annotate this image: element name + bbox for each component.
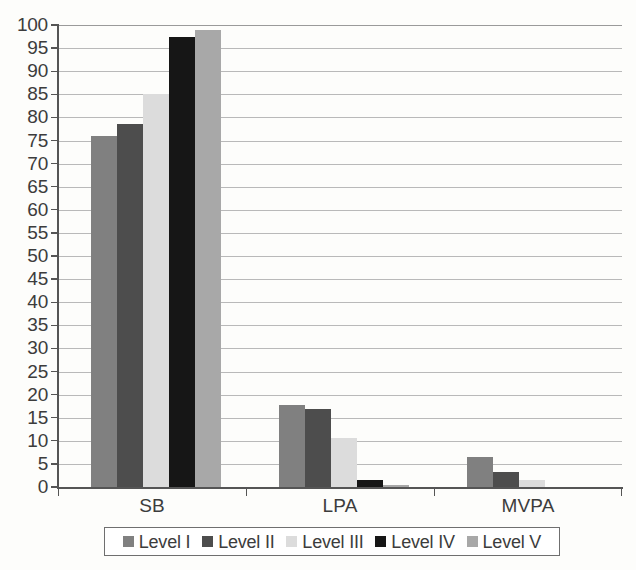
gridline: [58, 25, 622, 26]
bar-mvpa-level-ii: [493, 472, 519, 487]
y-axis-tick: [51, 94, 57, 95]
bar-lpa-level-ii: [305, 409, 331, 487]
x-axis-line: [57, 487, 623, 489]
legend-item-level-v: Level V: [467, 533, 542, 551]
legend-label: Level IV: [391, 533, 454, 551]
x-axis-label-sb: SB: [58, 495, 246, 517]
legend-item-level-iii: Level III: [286, 533, 363, 551]
y-axis-tick: [51, 24, 57, 25]
y-axis-tick-label: 70: [0, 154, 48, 173]
y-axis-tick-label: 25: [0, 362, 48, 381]
y-axis-tick-label: 75: [0, 131, 48, 150]
bar-sb-level-iv: [169, 37, 195, 487]
legend-swatch-icon: [123, 536, 134, 547]
y-axis-tick-label: 55: [0, 223, 48, 242]
y-axis-tick-label: 60: [0, 200, 48, 219]
bar-sb-level-v: [195, 30, 221, 487]
y-axis-tick: [51, 255, 57, 256]
y-axis-tick: [51, 186, 57, 187]
y-axis-tick: [51, 371, 57, 372]
y-axis-tick-label: 35: [0, 315, 48, 334]
gridline: [58, 71, 622, 72]
y-axis-tick: [51, 71, 57, 72]
y-axis-tick: [51, 47, 57, 48]
x-axis-label-mvpa: MVPA: [434, 495, 622, 517]
y-axis-tick-label: 5: [0, 454, 48, 473]
gridline: [58, 48, 622, 49]
y-axis-tick-label: 65: [0, 177, 48, 196]
y-axis-tick-label: 10: [0, 431, 48, 450]
y-axis-tick: [51, 209, 57, 210]
y-axis-tick-label: 15: [0, 408, 48, 427]
y-axis-tick: [51, 140, 57, 141]
bar-chart: 0510152025303540455055606570758085909510…: [0, 0, 636, 570]
legend-item-level-iv: Level IV: [375, 533, 454, 551]
legend-item-level-ii: Level II: [202, 533, 274, 551]
y-axis-tick: [51, 440, 57, 441]
y-axis-tick-label: 50: [0, 246, 48, 265]
y-axis-tick: [51, 302, 57, 303]
y-axis-tick-label: 100: [0, 15, 48, 34]
y-axis-tick: [51, 232, 57, 233]
legend-swatch-icon: [286, 536, 297, 547]
y-axis-tick: [51, 325, 57, 326]
legend-label: Level II: [218, 533, 274, 551]
chart-legend: Level ILevel IILevel IIILevel IVLevel V: [104, 527, 560, 556]
bar-sb-level-i: [91, 136, 117, 487]
bar-mvpa-level-i: [467, 457, 493, 487]
y-axis-tick-label: 80: [0, 107, 48, 126]
bar-lpa-level-iii: [331, 438, 357, 487]
legend-label: Level I: [139, 533, 191, 551]
bar-mvpa-level-iii: [519, 480, 545, 487]
legend-label: Level V: [483, 533, 542, 551]
legend-swatch-icon: [202, 536, 213, 547]
legend-swatch-icon: [375, 536, 386, 547]
y-axis-line: [57, 24, 59, 488]
y-axis-tick: [51, 417, 57, 418]
y-axis-tick: [51, 117, 57, 118]
bar-sb-level-iii: [143, 94, 169, 487]
y-axis-tick: [51, 278, 57, 279]
x-axis-label-lpa: LPA: [246, 495, 434, 517]
y-axis-tick: [51, 348, 57, 349]
y-axis-tick-label: 0: [0, 477, 48, 496]
y-axis-tick-label: 95: [0, 38, 48, 57]
y-axis-tick: [51, 394, 57, 395]
legend-label: Level III: [302, 533, 363, 551]
y-axis-tick-label: 30: [0, 338, 48, 357]
y-axis-tick-label: 85: [0, 84, 48, 103]
y-axis-tick-label: 90: [0, 61, 48, 80]
bar-lpa-level-i: [279, 405, 305, 487]
bar-sb-level-ii: [117, 124, 143, 487]
y-axis-tick-label: 40: [0, 292, 48, 311]
bar-lpa-level-iv: [357, 480, 383, 487]
legend-swatch-icon: [467, 536, 478, 547]
y-axis-tick: [51, 163, 57, 164]
y-axis-tick-label: 20: [0, 385, 48, 404]
y-axis-tick: [51, 463, 57, 464]
legend-item-level-i: Level I: [123, 533, 191, 551]
y-axis-tick-label: 45: [0, 269, 48, 288]
